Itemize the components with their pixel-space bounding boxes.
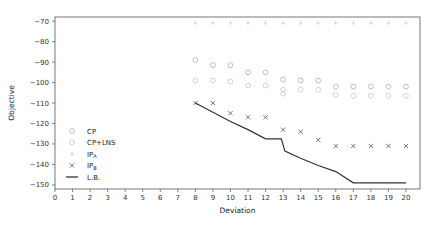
x-tick-label: 12 (261, 194, 270, 202)
marker-plus (211, 21, 215, 25)
marker-circle (281, 77, 286, 82)
figure-canvas: 01234567891011121314151617181920−70−80−9… (0, 0, 436, 226)
x-tick-label: 3 (105, 194, 109, 202)
scatter-plot: 01234567891011121314151617181920−70−80−9… (0, 0, 436, 226)
marker-plus (334, 21, 338, 25)
marker-plus (70, 152, 74, 156)
marker-x (228, 111, 232, 115)
marker-x (334, 144, 338, 148)
marker-plus (351, 21, 355, 25)
legend-subscript: B (93, 165, 97, 171)
legend-subscript: A (93, 153, 97, 159)
marker-circle (211, 63, 216, 68)
x-tick-label: 10 (226, 194, 235, 202)
x-tick-label: 7 (176, 194, 180, 202)
marker-x (263, 115, 267, 119)
series-IP (193, 21, 407, 25)
lower-bound-line (195, 103, 406, 183)
y-tick-label: −120 (30, 120, 49, 128)
marker-x (386, 144, 390, 148)
x-tick-label: 9 (211, 194, 215, 202)
x-tick-label: 15 (314, 194, 323, 202)
series-LB (195, 103, 406, 183)
marker-x (316, 138, 320, 142)
marker-circle (263, 83, 268, 88)
marker-plus (299, 21, 303, 25)
x-axis-title: Deviation (220, 206, 256, 215)
series-CP (193, 58, 408, 89)
y-tick-label: −80 (34, 38, 49, 46)
marker-plus (193, 21, 197, 25)
y-tick-label: −100 (30, 79, 49, 87)
marker-plus (229, 21, 233, 25)
marker-x (246, 115, 250, 119)
series-CPLNS (193, 78, 408, 98)
y-tick-label: −140 (30, 161, 49, 169)
x-tick-label: 6 (158, 194, 163, 202)
y-tick-label: −130 (30, 140, 49, 148)
marker-circle (404, 93, 409, 98)
legend-label-4: L.B. (87, 174, 100, 182)
x-tick-label: 1 (70, 194, 74, 202)
marker-circle (228, 79, 233, 84)
marker-plus (264, 21, 268, 25)
x-tick-label: 18 (366, 194, 375, 202)
legend-label-3: IPB (87, 162, 97, 171)
marker-circle (228, 63, 233, 68)
marker-plus (369, 21, 373, 25)
marker-circle (246, 70, 251, 75)
marker-x (299, 130, 303, 134)
marker-circle (298, 87, 303, 92)
x-tick-label: 8 (193, 194, 197, 202)
marker-circle (193, 58, 198, 63)
marker-circle (298, 78, 303, 83)
marker-x (70, 163, 74, 167)
x-tick-label: 14 (296, 194, 305, 202)
x-tick-label: 4 (123, 194, 128, 202)
y-tick-label: −70 (34, 18, 49, 26)
legend: CPCP+LNSIPAIPBL.B. (66, 128, 116, 182)
marker-circle (351, 93, 356, 98)
marker-circle (386, 84, 391, 89)
marker-plus (246, 21, 250, 25)
legend-label-2: IPA (87, 151, 97, 160)
x-tick-label: 13 (279, 194, 288, 202)
marker-circle (404, 84, 409, 89)
legend-label-0: CP (87, 128, 96, 136)
marker-circle (351, 84, 356, 89)
marker-circle (333, 84, 338, 89)
x-tick-label: 19 (384, 194, 393, 202)
marker-plus (404, 21, 408, 25)
x-tick-label: 17 (349, 194, 358, 202)
y-axis-title: Objective (7, 85, 16, 121)
marker-circle (211, 78, 216, 83)
x-tick-label: 5 (141, 194, 145, 202)
marker-circle (386, 93, 391, 98)
marker-circle (70, 129, 75, 134)
marker-circle (333, 92, 338, 97)
marker-circle (368, 84, 373, 89)
x-tick-label: 20 (402, 194, 411, 202)
y-tick-label: −110 (30, 100, 49, 108)
marker-plus (387, 21, 391, 25)
marker-circle (316, 87, 321, 92)
marker-x (404, 144, 408, 148)
marker-x (369, 144, 373, 148)
marker-circle (263, 70, 268, 75)
y-tick-label: −150 (30, 181, 49, 189)
plot-frame (55, 17, 420, 189)
x-tick-label: 16 (331, 194, 340, 202)
legend-label-1: CP+LNS (87, 139, 116, 147)
marker-circle (316, 78, 321, 83)
marker-x (281, 128, 285, 132)
marker-circle (368, 93, 373, 98)
x-tick-label: 11 (244, 194, 253, 202)
marker-plus (281, 21, 285, 25)
marker-circle (246, 83, 251, 88)
x-tick-label: 2 (88, 194, 92, 202)
y-tick-label: −90 (34, 59, 49, 67)
x-tick-label: 0 (53, 194, 57, 202)
series-IP (193, 101, 408, 148)
marker-x (351, 144, 355, 148)
marker-plus (316, 21, 320, 25)
